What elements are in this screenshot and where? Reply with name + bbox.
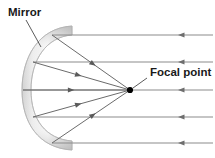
- concave-mirror-shading: [22, 26, 72, 150]
- incoming-ray-arrow-3: [178, 87, 185, 92]
- reflected-ray-arrow-2: [75, 72, 82, 77]
- mirror-label-leader-line: [26, 20, 41, 47]
- optics-diagram-svg: Mirror Focal point: [0, 0, 215, 158]
- focal-point-marker: [127, 87, 133, 93]
- incoming-ray-arrow-1: [178, 32, 185, 37]
- reflected-ray-arrow-4: [75, 103, 82, 108]
- incoming-ray-arrow-4: [178, 114, 185, 119]
- reflected-ray-arrow-5: [89, 113, 96, 119]
- focal-point-label: Focal point: [150, 66, 212, 78]
- incoming-ray-arrow-5: [178, 140, 185, 145]
- reflected-ray-arrow-1: [89, 60, 96, 66]
- optics-diagram-canvas: Mirror Focal point: [0, 0, 215, 158]
- reflected-ray-arrow-3: [68, 87, 75, 92]
- incoming-parallel-rays-group: [23, 32, 213, 145]
- mirror-label: Mirror: [8, 6, 42, 18]
- incoming-ray-arrow-2: [178, 59, 185, 64]
- mirror-group: [22, 26, 72, 150]
- focal-point-label-leader-line: [133, 78, 147, 88]
